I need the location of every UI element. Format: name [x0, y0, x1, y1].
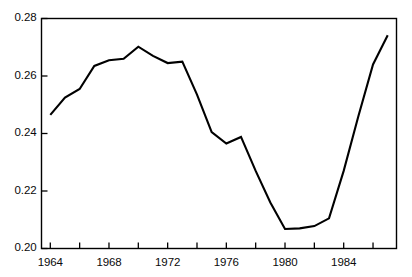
y-axis-tick-label: 0.24: [0, 126, 37, 138]
chart-background: [0, 0, 412, 277]
line-chart: 0.200.220.240.260.28 1964196819721976198…: [0, 0, 412, 277]
x-axis-tick-label: 1984: [321, 256, 367, 268]
x-axis-tick-label: 1968: [86, 256, 132, 268]
x-axis-tick-label: 1980: [262, 256, 308, 268]
x-axis-tick-label: 1976: [203, 256, 249, 268]
y-axis-tick-label: 0.20: [0, 241, 37, 253]
x-axis-tick-label: 1972: [145, 256, 191, 268]
y-axis-tick-label: 0.28: [0, 11, 37, 23]
plot-area: [0, 0, 412, 277]
x-axis-tick-label: 1964: [27, 256, 73, 268]
y-axis-tick-label: 0.22: [0, 184, 37, 196]
y-axis-tick-label: 0.26: [0, 69, 37, 81]
